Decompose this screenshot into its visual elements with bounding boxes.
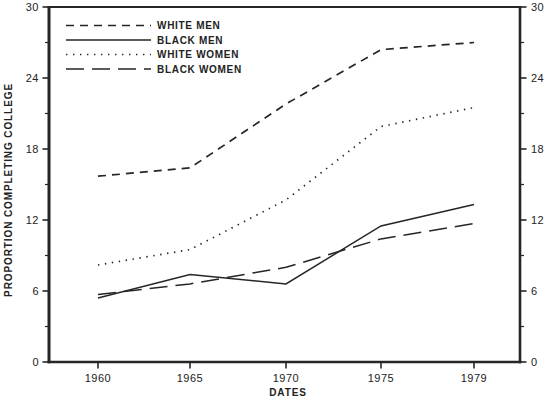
y-tick-label-left: 30 [26,1,39,13]
legend-item: WHITE MEN [66,20,221,31]
y-tick-label-left: 24 [26,72,39,84]
x-tick-label: 1975 [368,372,394,384]
x-axis-title: DATES [269,387,307,398]
x-tick-label: 1965 [177,372,203,384]
legend-label: WHITE WOMEN [157,49,239,60]
y-tick-label-left: 6 [32,285,39,297]
legend-label: BLACK WOMEN [157,64,242,75]
y-tick-label-left: 0 [32,356,39,368]
y-tick-label-right: 6 [531,285,538,297]
y-axis-title: PROPORTION COMPLETING COLLEGE [3,83,14,297]
series-line-white-women [98,108,474,265]
legend-item: WHITE WOMEN [66,49,239,60]
y-tick-label-left: 18 [26,143,39,155]
axis-ticks: 0066121218182424303019601965197019751979 [26,1,545,384]
legend-item: BLACK WOMEN [66,64,242,75]
plot-frame [48,6,522,363]
chart-canvas: 0066121218182424303019601965197019751979… [0,0,551,401]
data-series [98,43,474,299]
y-tick-label-right: 12 [531,214,544,226]
x-tick-label: 1960 [85,372,111,384]
y-tick-label-right: 24 [531,72,544,84]
legend-item: BLACK MEN [66,35,223,46]
x-tick-label: 1979 [461,372,487,384]
y-tick-label-right: 0 [531,356,538,368]
y-tick-label-right: 18 [531,143,544,155]
y-tick-label-right: 30 [531,1,544,13]
series-line-black-men [98,205,474,299]
figure: 0066121218182424303019601965197019751979… [0,0,551,401]
legend-label: BLACK MEN [157,35,223,46]
series-line-white-men [98,43,474,177]
legend-label: WHITE MEN [157,20,221,31]
x-tick-label: 1970 [273,372,299,384]
legend: WHITE MENBLACK MENWHITE WOMENBLACK WOMEN [66,20,242,75]
y-tick-label-left: 12 [26,214,39,226]
